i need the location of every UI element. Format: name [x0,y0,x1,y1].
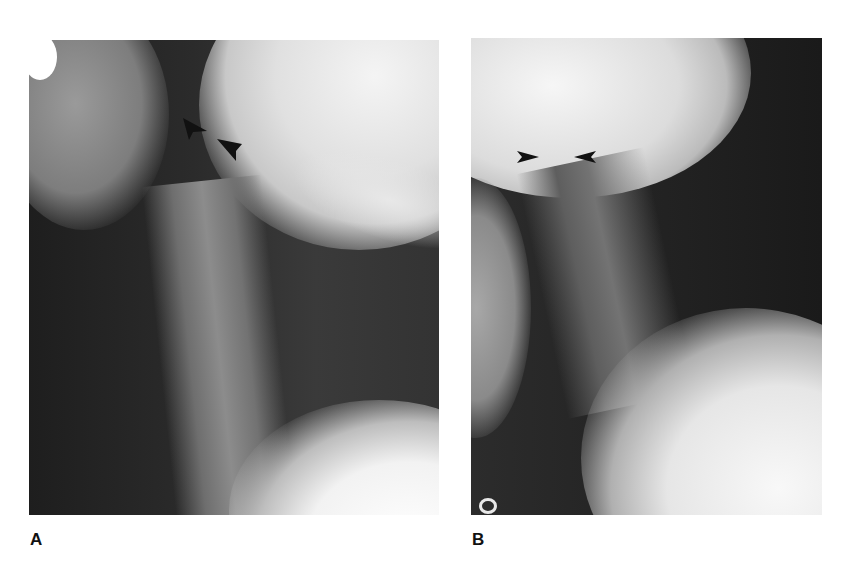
arrowhead-icon [183,118,207,140]
arrowhead-icon [574,151,596,163]
panel-label-b: B [472,530,484,550]
arrowhead-markers [471,38,822,515]
arrowhead-markers [29,40,439,515]
arrowhead-icon [217,139,242,161]
xray-panel-a [29,40,439,515]
xray-panel-b [471,38,822,515]
panel-label-a: A [30,530,42,550]
arrowhead-icon [517,151,539,163]
